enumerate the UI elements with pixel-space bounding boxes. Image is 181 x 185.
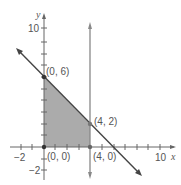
point-0-0 xyxy=(42,145,46,149)
x-axis-label: x xyxy=(170,151,176,162)
line-x-plus-y-eq-6 xyxy=(19,51,139,173)
point-4-0 xyxy=(88,145,92,149)
x-axis-arrow-icon xyxy=(170,145,176,149)
point-4-2 xyxy=(88,122,92,126)
tick-label-x-10: 10 xyxy=(155,152,167,163)
label-4-2: (4, 2) xyxy=(94,116,117,127)
label-0-0: (0, 0) xyxy=(47,151,70,162)
feasible-region xyxy=(44,77,90,147)
arrow-down-icon xyxy=(88,172,92,179)
tick-label-x-neg2: −2 xyxy=(14,152,26,163)
chart: y x 10 −2 −2 10 (0, 6) (4, 2) (0, 0) (4,… xyxy=(0,0,181,185)
tick-label-y-10: 10 xyxy=(28,23,40,34)
y-axis-arrow-icon xyxy=(42,13,46,19)
label-0-6: (0, 6) xyxy=(46,66,69,77)
tick-label-y-neg2: −2 xyxy=(29,165,41,176)
y-axis-label: y xyxy=(35,9,41,20)
label-4-0: (4, 0) xyxy=(93,151,116,162)
arrow-up-icon xyxy=(88,22,92,29)
